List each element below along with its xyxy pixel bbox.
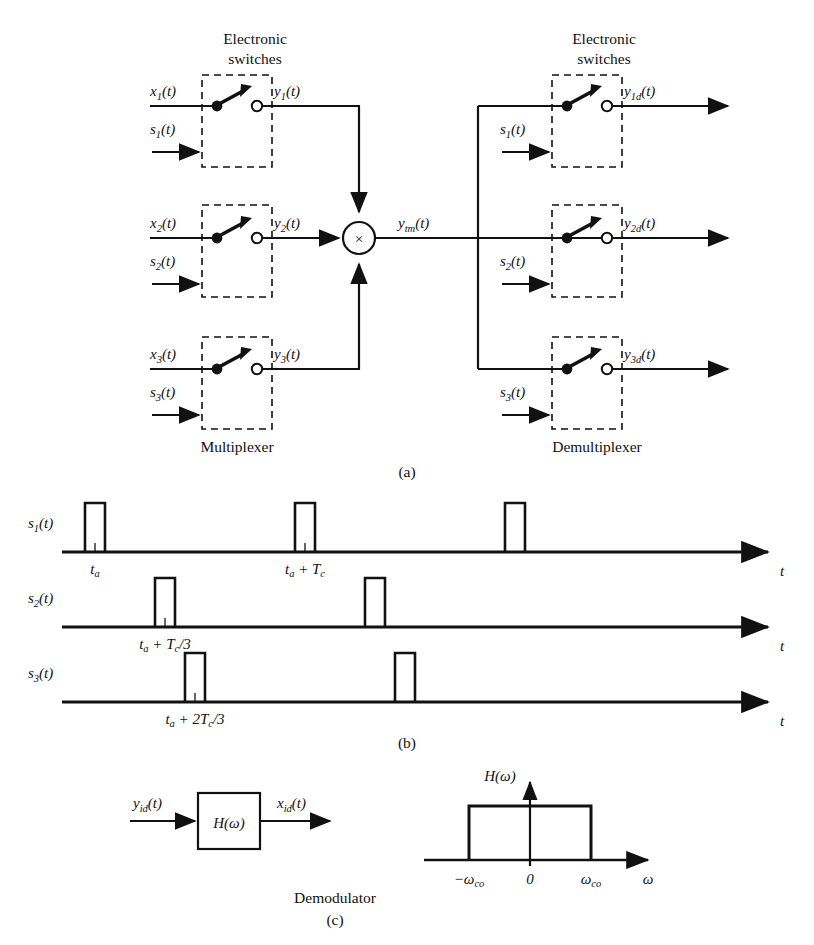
- mux-switch-title-line1: Electronic: [223, 30, 287, 47]
- switch-contact-open-1: [252, 101, 262, 111]
- timing-axis-label-2: t: [780, 638, 785, 654]
- demultiplexer-label: Demultiplexer: [552, 438, 642, 455]
- timing-row-1: s1(t) ta ta + Tc t: [28, 503, 785, 579]
- demux-switch-arm-2: [569, 223, 593, 236]
- mux-input-label-2: x2(t): [149, 215, 176, 234]
- timing-section: s1(t) ta ta + Tc t s2(t) ta + Tc/3 t s3(…: [28, 503, 785, 752]
- switch-arm-3: [219, 354, 243, 367]
- demux-arm-head-2: [590, 216, 602, 229]
- timing-row-label-2: s2(t): [28, 590, 53, 609]
- mux-output-label-3: y3(t): [272, 346, 300, 365]
- demux-arm-head-1: [590, 84, 602, 97]
- caption-b: (b): [398, 734, 416, 752]
- mux-channel-3[interactable]: x3(t) y3(t) s3(t) Multiplexer: [149, 337, 360, 455]
- mux-switch-box-3: [202, 337, 272, 429]
- switch-arm-head-3: [240, 347, 252, 360]
- demux-output-label-1: y1d(t): [622, 83, 655, 102]
- multiplexer-label: Multiplexer: [200, 438, 274, 455]
- demux-control-label-1: s1(t): [500, 121, 525, 140]
- timing-row-3: s3(t) ta + 2Tc/3 t: [28, 653, 785, 729]
- plot-x-label: ω: [643, 871, 654, 887]
- mux-output-label-2: y2(t): [272, 215, 300, 234]
- pulse: [365, 578, 385, 627]
- mux-input-label-3: x3(t): [149, 346, 176, 365]
- mux-control-label-3: s3(t): [150, 384, 175, 403]
- mux-input-label-1: x1(t): [149, 83, 176, 102]
- plot-tick-origin: 0: [526, 871, 534, 887]
- demux-control-label-2: s2(t): [500, 253, 525, 272]
- demux-channel-3[interactable]: y3d(t) s3(t) Demultiplexer: [478, 337, 728, 455]
- timing-row-2: s2(t) ta + Tc/3 t: [28, 578, 785, 654]
- demodulator-section: H(ω) yid(t) xid(t) H(ω) −ωco 0 ωco ω Dem…: [130, 768, 653, 929]
- timing-tick-label-2a: ta + Tc/3: [139, 636, 191, 654]
- plot-tick-right: ωco: [581, 871, 602, 889]
- plot-tick-left: −ωco: [454, 871, 485, 889]
- demux-channel-1[interactable]: y1d(t) s1(t): [478, 75, 728, 167]
- demux-contact-open-1: [602, 101, 612, 111]
- trunk-label: ytm(t): [396, 215, 429, 234]
- mux-control-label-2: s2(t): [150, 253, 175, 272]
- switch-arm-2: [219, 223, 243, 236]
- switch-contact-open-3: [252, 364, 262, 374]
- switch-arm-head-2: [240, 216, 252, 229]
- demux-switch-arm-3: [569, 354, 593, 367]
- figure-tdm-system: Electronic switches x1(t) y1(t) s1(t) x2: [0, 0, 814, 945]
- timing-axis-label-1: t: [780, 563, 785, 579]
- figure-canvas: Electronic switches x1(t) y1(t) s1(t) x2: [0, 0, 814, 945]
- demux-output-label-3: y3d(t): [622, 346, 655, 365]
- caption-c: (c): [326, 911, 343, 929]
- mux-channel-1[interactable]: x1(t) y1(t) s1(t): [149, 75, 360, 167]
- demux-switch-box-2: [552, 205, 622, 297]
- switch-contact-open-2: [252, 233, 262, 243]
- timing-tick-label-1b: ta + Tc: [285, 561, 325, 579]
- timing-row-label-1: s1(t): [28, 515, 53, 534]
- demux-switch-box-3: [552, 337, 622, 429]
- demux-channel-2[interactable]: y2d(t) s2(t): [478, 205, 728, 297]
- demod-input-label: yid(t): [131, 795, 162, 814]
- demux-contact-open-2: [602, 233, 612, 243]
- pulse: [395, 653, 415, 702]
- pulse: [505, 503, 525, 552]
- demux-switch-title-line2: switches: [577, 50, 630, 67]
- switch-arm-1: [219, 91, 243, 104]
- demux-control-label-3: s3(t): [500, 384, 525, 403]
- mux-switch-box-2: [202, 205, 272, 297]
- timing-row-label-3: s3(t): [28, 665, 53, 684]
- demodulator-label: Demodulator: [294, 889, 377, 906]
- plot-y-label: H(ω): [483, 768, 515, 785]
- switch-arm-head-1: [240, 84, 252, 97]
- demux-arm-head-3: [590, 347, 602, 360]
- demux-switch-title-line1: Electronic: [572, 30, 636, 47]
- mux-control-label-1: s1(t): [150, 121, 175, 140]
- demux-contact-open-3: [602, 364, 612, 374]
- filter-response-plot: H(ω) −ωco 0 ωco ω: [424, 768, 653, 889]
- timing-tick-label-3a: ta + 2Tc/3: [165, 711, 224, 729]
- timing-axis-label-3: t: [780, 713, 785, 729]
- caption-a: (a): [398, 463, 415, 481]
- mux-output-label-1: y1(t): [272, 83, 300, 102]
- mux-switch-box-1: [202, 75, 272, 167]
- demux-switch-arm-1: [569, 91, 593, 104]
- multiplier-symbol: ×: [355, 231, 363, 247]
- block-diagram-section: Electronic switches x1(t) y1(t) s1(t) x2: [149, 30, 728, 481]
- mux-switch-title-line2: switches: [228, 50, 281, 67]
- demod-output-label: xid(t): [276, 795, 306, 814]
- mux-channel-2[interactable]: x2(t) y2(t) s2(t): [149, 205, 339, 297]
- filter-block-label: H(ω): [212, 815, 244, 832]
- timing-tick-label-1a: ta: [90, 561, 99, 579]
- demux-switch-box-1: [552, 75, 622, 167]
- demux-output-label-2: y2d(t): [622, 215, 655, 234]
